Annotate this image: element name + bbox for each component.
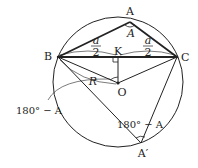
- point-O: [116, 81, 119, 84]
- point-B: [57, 56, 59, 58]
- label-B: B: [44, 50, 52, 63]
- label-angle-O: 180° − A: [16, 105, 63, 116]
- label-radius: R: [88, 75, 97, 88]
- segment-BA2: [58, 57, 141, 143]
- label-K: K: [114, 45, 123, 58]
- circumcircle-diagram: A B C K O A′ A a 2 a 2 R 180° − A 180° −…: [0, 0, 198, 168]
- label-half-a-left-den: 2: [93, 46, 100, 59]
- angle-arc-O: [110, 77, 118, 80]
- label-C: C: [181, 51, 189, 64]
- label-A-prime: A′: [137, 147, 149, 160]
- label-half-a-right-den: 2: [145, 46, 152, 59]
- point-C: [176, 56, 178, 58]
- label-A: A: [125, 5, 135, 18]
- segment-CA2: [141, 57, 177, 143]
- label-O: O: [117, 86, 126, 99]
- label-angle-A-prime: 180° − A: [117, 119, 164, 130]
- label-angle-A: A: [126, 27, 135, 40]
